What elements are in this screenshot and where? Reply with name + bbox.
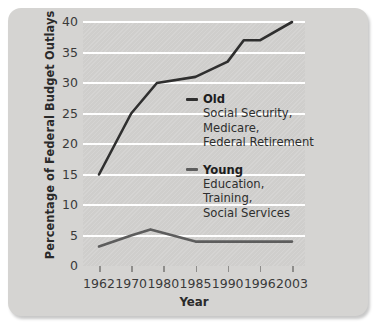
x-axis-ticks xyxy=(0,266,382,274)
legend-head-old: Old xyxy=(186,92,302,106)
legend-entry-young: Young Education, Training, Social Servic… xyxy=(186,163,302,221)
legend-swatch-young-icon xyxy=(186,168,198,171)
x-tick xyxy=(292,266,294,272)
x-tick xyxy=(163,266,165,272)
legend-description-line: Social Security, xyxy=(203,106,302,121)
legend-swatch-old-icon xyxy=(186,98,198,101)
legend-description-line: Medicare, xyxy=(203,121,302,136)
legend-description-line: Federal Retirement xyxy=(203,135,302,150)
x-axis-title: Year xyxy=(83,295,305,309)
legend-label-young: Young xyxy=(203,163,243,177)
x-tick xyxy=(131,266,133,272)
legend-description-old: Social Security, Medicare, Federal Retir… xyxy=(203,106,302,150)
gridline xyxy=(83,21,305,23)
x-axis-tick-labels: 1962197019801985199019962003 xyxy=(0,276,382,292)
legend-head-young: Young xyxy=(186,163,302,177)
x-tick xyxy=(260,266,262,272)
gridline xyxy=(83,82,305,84)
gridline xyxy=(83,235,305,237)
x-tick xyxy=(228,266,230,272)
chart-legend: Old Social Security, Medicare, Federal R… xyxy=(186,92,302,231)
chart-figure: 0510152025303540 Percentage of Federal B… xyxy=(0,0,382,335)
legend-entry-old: Old Social Security, Medicare, Federal R… xyxy=(186,92,302,150)
x-tick xyxy=(196,266,198,272)
x-tick-label: 2003 xyxy=(269,276,315,291)
legend-description-young: Education, Training, Social Services xyxy=(203,177,302,221)
x-tick xyxy=(99,266,101,272)
legend-label-old: Old xyxy=(203,92,225,106)
legend-description-line: Education, xyxy=(203,177,302,192)
gridline xyxy=(83,52,305,54)
legend-description-line: Training, xyxy=(203,191,302,206)
legend-description-line: Social Services xyxy=(203,206,302,221)
y-axis-title: Percentage of Federal Budget Outlays xyxy=(43,10,57,260)
